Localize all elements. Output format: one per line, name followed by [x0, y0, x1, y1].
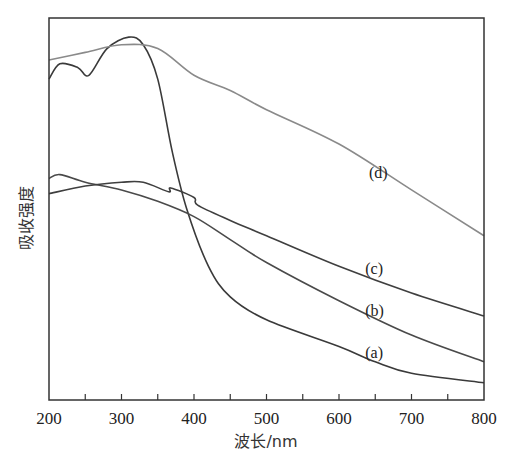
plot-frame — [49, 18, 484, 400]
curve-a — [49, 37, 484, 383]
x-tick-label: 400 — [181, 409, 207, 428]
x-tick-label: 600 — [326, 409, 352, 428]
y-axis-title: 吸收强度 — [17, 186, 36, 250]
curve-label-b: (b) — [365, 302, 384, 320]
absorption-spectrum-chart: 200300400500600700800 (a)(b)(c)(d) 波长/nm… — [0, 0, 512, 470]
x-tick-label: 500 — [254, 409, 280, 428]
x-axis-ticks — [85, 394, 448, 400]
curve-c — [49, 181, 484, 316]
x-axis-title: 波长/nm — [234, 432, 297, 451]
x-axis-tick-labels: 200300400500600700800 — [36, 409, 497, 428]
curve-label-a: (a) — [365, 344, 383, 362]
x-tick-label: 300 — [109, 409, 135, 428]
x-tick-label: 200 — [36, 409, 62, 428]
x-tick-label: 700 — [399, 409, 425, 428]
x-tick-label: 800 — [471, 409, 497, 428]
plot-curves — [49, 37, 484, 383]
curve-labels: (a)(b)(c)(d) — [365, 164, 387, 362]
curve-d — [49, 44, 484, 235]
curve-label-d: (d) — [369, 164, 388, 182]
curve-b — [49, 175, 484, 362]
curve-label-c: (c) — [365, 260, 383, 278]
